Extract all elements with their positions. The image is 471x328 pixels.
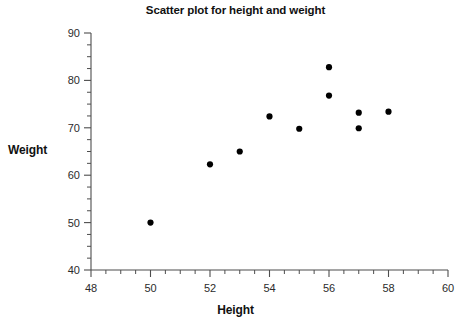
x-tick-label: 54 <box>263 282 275 294</box>
data-point <box>147 220 153 226</box>
x-tick-label: 56 <box>323 282 335 294</box>
y-tick-label: 80 <box>68 74 80 86</box>
x-axis: 48505254565860 <box>85 270 454 294</box>
data-point <box>266 113 272 119</box>
x-tick-label: 50 <box>144 282 156 294</box>
data-point <box>237 148 243 154</box>
y-tick-label: 90 <box>68 27 80 39</box>
x-tick-label: 60 <box>442 282 454 294</box>
y-tick-label: 40 <box>68 264 80 276</box>
y-tick-label: 50 <box>68 217 80 229</box>
y-tick-label: 70 <box>68 122 80 134</box>
data-point <box>385 109 391 115</box>
data-point <box>356 125 362 131</box>
scatter-chart: Scatter plot for height and weight Weigh… <box>0 0 471 328</box>
data-point <box>296 126 302 132</box>
plot-area: 405060708090 48505254565860 <box>0 0 471 328</box>
x-tick-label: 48 <box>85 282 97 294</box>
data-point <box>326 92 332 98</box>
data-point <box>326 64 332 70</box>
data-point <box>207 161 213 167</box>
y-axis: 405060708090 <box>68 27 91 276</box>
data-point <box>356 110 362 116</box>
x-tick-label: 52 <box>204 282 216 294</box>
y-tick-label: 60 <box>68 169 80 181</box>
x-tick-label: 58 <box>382 282 394 294</box>
data-points <box>147 64 391 226</box>
